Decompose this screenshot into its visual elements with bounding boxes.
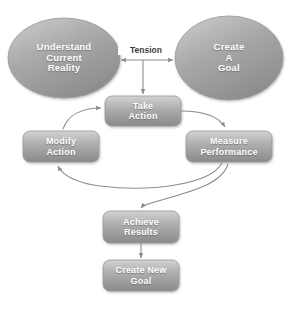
node-create-new-goal[interactable] xyxy=(103,260,179,291)
diagram-canvas: Understand Current Reality Create A Goal… xyxy=(0,0,293,311)
edge-modify-action-to-take-action xyxy=(63,108,101,129)
node-achieve-results[interactable] xyxy=(103,211,179,243)
node-take-action[interactable] xyxy=(105,96,181,126)
edge-measure-performance-to-modify-action xyxy=(58,163,222,188)
edge-take-action-to-measure-performance xyxy=(181,111,225,127)
node-modify-action[interactable] xyxy=(23,131,99,162)
edge-label-tension: Tension xyxy=(118,45,174,55)
node-understand-current-reality[interactable] xyxy=(8,18,120,98)
node-create-a-goal[interactable] xyxy=(175,16,283,100)
node-measure-performance[interactable] xyxy=(186,131,272,162)
